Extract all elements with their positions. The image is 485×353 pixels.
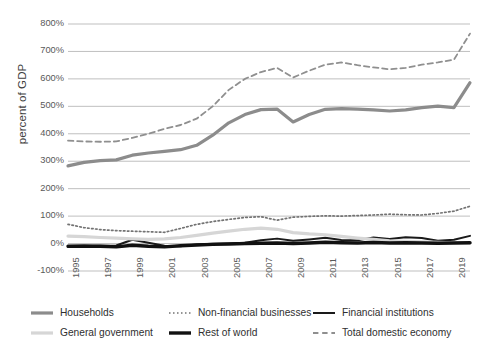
series-line-households: [68, 83, 470, 166]
legend-item-households[interactable]: Households: [30, 307, 114, 319]
legend-label-general-government: General government: [60, 328, 153, 338]
chart-legend: HouseholdsNon-financial businessesFinanc…: [0, 303, 485, 353]
legend-swatch-rest-of-world: [168, 327, 192, 339]
legend-label-households: Households: [60, 308, 114, 318]
legend-swatch-financial-institutions: [312, 307, 336, 319]
legend-item-total-domestic-economy[interactable]: Total domestic economy: [312, 327, 451, 339]
legend-item-rest-of-world[interactable]: Rest of world: [168, 327, 257, 339]
legend-item-non-financial-businesses[interactable]: Non-financial businesses: [168, 307, 311, 319]
plot-area: [0, 0, 485, 353]
legend-item-financial-institutions[interactable]: Financial institutions: [312, 307, 434, 319]
chart-container: percent of GDP 800%700%600%500%400%300%2…: [0, 0, 485, 353]
x-axis-tick-label: 2015: [394, 257, 403, 278]
legend-swatch-non-financial-businesses: [168, 307, 192, 319]
legend-label-rest-of-world: Rest of world: [198, 328, 257, 338]
legend-label-non-financial-businesses: Non-financial businesses: [198, 308, 311, 318]
x-axis-tick-label: 2009: [297, 257, 306, 278]
x-axis-tick-label: 2019: [458, 257, 467, 278]
x-axis-tick-label: 2003: [201, 257, 210, 278]
legend-label-total-domestic-economy: Total domestic economy: [342, 328, 451, 338]
series-line-total-domestic-economy: [68, 34, 470, 142]
x-axis-tick-label: 2001: [168, 257, 177, 278]
x-axis-tick-label: 2007: [265, 257, 274, 278]
legend-swatch-households: [30, 307, 54, 319]
legend-label-financial-institutions: Financial institutions: [342, 308, 434, 318]
x-axis-tick-label: 1999: [136, 257, 145, 278]
x-axis-tick-label: 2013: [361, 257, 370, 278]
x-axis-tick-label: 1997: [104, 257, 113, 278]
x-axis-tick-label: 2017: [426, 257, 435, 278]
legend-swatch-total-domestic-economy: [312, 327, 336, 339]
x-axis-tick-label: 2011: [329, 258, 338, 278]
series-line-rest-of-world: [68, 242, 470, 247]
x-axis-tick-label: 2005: [233, 257, 242, 278]
x-axis-tick-label: 1995: [72, 257, 81, 278]
legend-swatch-general-government: [30, 327, 54, 339]
legend-item-general-government[interactable]: General government: [30, 327, 153, 339]
